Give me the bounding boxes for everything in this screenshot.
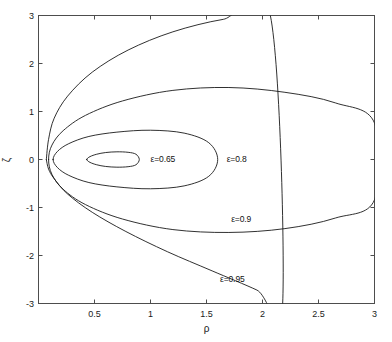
y-axis-title: ζ — [2, 153, 12, 167]
plot-frame — [39, 16, 375, 304]
y-tick-label: 2 — [12, 59, 34, 68]
contour-label-0: ε=0.65 — [151, 155, 176, 164]
contour-curve-2 — [49, 87, 380, 232]
contour-plot-figure: 0.511.522.53 3210-1-2-3 ρ ζ ε=0.65ε=0.8ε… — [0, 0, 392, 342]
y-tick-label: -3 — [12, 299, 34, 308]
contour-label-1: ε=0.8 — [227, 155, 247, 164]
x-tick-label: 2 — [260, 310, 265, 319]
plot-canvas — [0, 0, 392, 342]
y-tick-label: 0 — [12, 155, 34, 164]
x-axis-title: ρ — [204, 324, 210, 334]
x-tick-label: 0.5 — [88, 310, 101, 319]
tick-marks — [39, 16, 375, 304]
x-tick-label: 1 — [148, 310, 153, 319]
y-tick-label: -1 — [12, 203, 34, 212]
contour-curves — [46, 0, 379, 322]
y-tick-label: 3 — [12, 11, 34, 20]
x-tick-label: 3 — [372, 310, 377, 319]
x-tick-label: 2.5 — [312, 310, 325, 319]
contour-curve-0 — [87, 152, 140, 167]
contour-label-2: ε=0.9 — [231, 215, 251, 224]
contour-label-3: ε=0.95 — [220, 275, 245, 284]
y-tick-label: -2 — [12, 251, 34, 260]
x-tick-label: 1.5 — [200, 310, 213, 319]
y-tick-label: 1 — [12, 107, 34, 116]
contour-curve-1 — [53, 130, 218, 189]
